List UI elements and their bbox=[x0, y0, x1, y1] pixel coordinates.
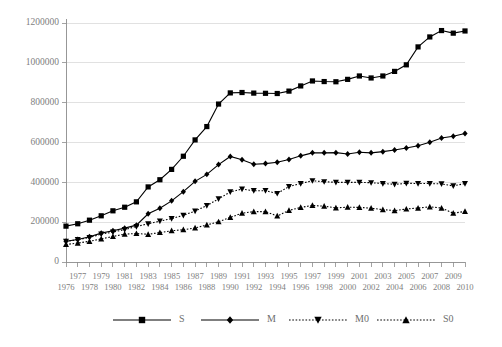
data-point-m bbox=[275, 159, 280, 165]
series-group bbox=[63, 28, 468, 247]
data-point-s bbox=[322, 79, 327, 84]
legend-item-m0[interactable]: M0 bbox=[289, 313, 369, 324]
y-tick-label: 400000 bbox=[31, 177, 60, 187]
data-point-s bbox=[216, 101, 221, 106]
data-point-s bbox=[169, 167, 174, 172]
data-point-s bbox=[439, 28, 444, 33]
data-point-m bbox=[345, 151, 350, 157]
x-tick-label-even: 2004 bbox=[386, 282, 404, 292]
x-tick-label-even: 1984 bbox=[151, 282, 169, 292]
data-point-m bbox=[228, 153, 233, 159]
data-point-m bbox=[322, 150, 327, 156]
data-point-s0 bbox=[204, 222, 210, 228]
x-axis-labels-bottom-group: 1976197819801982198419861988199019921994… bbox=[57, 282, 473, 292]
x-tick-label-even: 1982 bbox=[128, 282, 145, 292]
x-tick-label-even: 1992 bbox=[245, 282, 262, 292]
data-point-s bbox=[263, 91, 268, 96]
data-point-s bbox=[333, 79, 338, 84]
data-point-m bbox=[298, 153, 303, 159]
x-tick-label-odd: 2001 bbox=[351, 271, 368, 281]
x-tick-label-odd: 1987 bbox=[186, 271, 204, 281]
data-point-s bbox=[146, 184, 151, 189]
x-tick-label-even: 1978 bbox=[81, 282, 98, 292]
x-tick-label-odd: 2003 bbox=[374, 271, 391, 281]
data-point-s0 bbox=[298, 204, 304, 210]
x-tick-label-even: 2006 bbox=[409, 282, 427, 292]
x-tick-label-even: 2008 bbox=[433, 282, 450, 292]
data-point-s bbox=[251, 91, 256, 96]
x-tick-label-odd: 1989 bbox=[210, 271, 227, 281]
data-point-s bbox=[122, 205, 127, 210]
data-point-s bbox=[357, 73, 362, 78]
legend-item-m[interactable]: M bbox=[201, 313, 276, 324]
data-point-s0 bbox=[321, 203, 327, 209]
data-point-s bbox=[228, 90, 233, 95]
data-point-m bbox=[451, 133, 456, 139]
x-tick-label-even: 1994 bbox=[269, 282, 287, 292]
data-point-m0 bbox=[227, 189, 233, 195]
data-point-s bbox=[75, 221, 80, 226]
data-point-m bbox=[310, 150, 315, 156]
data-point-s bbox=[63, 224, 68, 229]
data-point-s0 bbox=[63, 241, 69, 247]
data-point-s0 bbox=[462, 208, 468, 214]
data-point-s bbox=[110, 208, 115, 213]
data-point-s bbox=[134, 199, 139, 204]
data-point-s bbox=[310, 78, 315, 83]
data-point-s0 bbox=[145, 231, 151, 237]
x-tick-label-even: 1990 bbox=[222, 282, 239, 292]
data-point-m0 bbox=[204, 203, 210, 209]
data-point-s0 bbox=[263, 208, 269, 214]
x-tick-label-odd: 1983 bbox=[140, 271, 157, 281]
data-point-s bbox=[87, 218, 92, 223]
x-tick-label-even: 1988 bbox=[198, 282, 215, 292]
series-line-s bbox=[66, 31, 465, 227]
data-point-s bbox=[380, 73, 385, 78]
data-point-s bbox=[157, 177, 162, 182]
data-point-m bbox=[392, 147, 397, 153]
gridlines-group bbox=[62, 23, 465, 262]
data-point-m0 bbox=[216, 196, 222, 202]
data-point-m0 bbox=[450, 183, 456, 189]
legend-item-s[interactable]: S bbox=[113, 313, 185, 324]
legend-item-s0[interactable]: S0 bbox=[377, 313, 454, 324]
data-point-m0 bbox=[309, 178, 315, 184]
legend-label-m: M bbox=[267, 313, 276, 324]
x-tick-label-odd: 1999 bbox=[327, 271, 344, 281]
data-point-m bbox=[427, 139, 432, 145]
x-tick-label-odd: 2005 bbox=[398, 271, 415, 281]
data-point-s bbox=[192, 137, 197, 142]
x-tick-label-odd: 2007 bbox=[421, 271, 439, 281]
data-point-m bbox=[333, 150, 338, 156]
data-point-m bbox=[251, 161, 256, 167]
chart-container: 020000040000060000080000010000001200000 … bbox=[0, 0, 502, 347]
data-point-s bbox=[392, 69, 397, 74]
x-tick-label-odd: 1995 bbox=[280, 271, 297, 281]
data-point-m bbox=[369, 150, 374, 156]
x-tick-label-even: 1996 bbox=[292, 282, 310, 292]
x-tick-label-even: 2010 bbox=[456, 282, 473, 292]
data-point-s0 bbox=[216, 219, 222, 225]
y-tick-label: 600000 bbox=[31, 137, 60, 147]
x-tick-label-odd: 1977 bbox=[69, 271, 87, 281]
x-tick-label-even: 1998 bbox=[316, 282, 333, 292]
data-point-m0 bbox=[263, 188, 269, 194]
data-point-s bbox=[415, 44, 420, 49]
y-tick-label: 200000 bbox=[31, 216, 60, 226]
data-point-m bbox=[415, 143, 420, 149]
y-tick-label: 800000 bbox=[31, 97, 60, 107]
line-chart: 020000040000060000080000010000001200000 … bbox=[0, 0, 502, 347]
x-tick-label-even: 2002 bbox=[363, 282, 380, 292]
data-point-s0 bbox=[274, 213, 280, 219]
data-point-m0 bbox=[157, 219, 163, 225]
y-tick-label: 0 bbox=[54, 256, 59, 266]
data-point-s0 bbox=[286, 207, 292, 213]
legend-label-s0: S0 bbox=[443, 313, 454, 324]
legend-diamond-marker bbox=[227, 316, 233, 323]
chart-legend: SMM0S0 bbox=[113, 313, 454, 324]
x-tick-label-odd: 1985 bbox=[163, 271, 180, 281]
data-point-s bbox=[404, 62, 409, 67]
data-point-s0 bbox=[345, 204, 351, 210]
data-point-m bbox=[404, 145, 409, 151]
y-tick-label: 1000000 bbox=[26, 57, 60, 67]
